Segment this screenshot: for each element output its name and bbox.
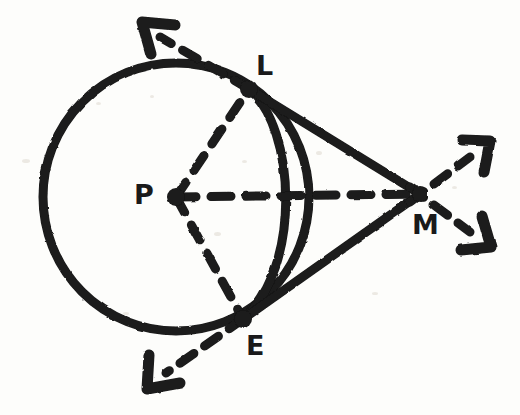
paper-speck	[372, 292, 378, 295]
segment-PM	[176, 194, 420, 197]
point-dot-E	[234, 310, 252, 328]
radius-PE	[176, 197, 243, 319]
paper-speck	[96, 102, 101, 105]
segment-EM	[243, 194, 420, 319]
geometry-diagram: P L E M	[0, 0, 520, 415]
point-label-L: L	[256, 52, 273, 79]
point-dot-M	[412, 186, 428, 202]
paper-speck	[150, 95, 154, 98]
radius-PL	[176, 89, 249, 197]
point-label-M: M	[412, 211, 439, 238]
paper-speck	[452, 186, 457, 189]
paper-speck	[316, 151, 322, 155]
point-dot-P	[167, 188, 185, 206]
paper-speck	[242, 160, 247, 163]
point-dot-L	[240, 80, 258, 98]
paper-speck	[22, 159, 30, 163]
paper-speck	[123, 312, 129, 315]
point-label-E: E	[246, 332, 264, 359]
paper-speck	[214, 232, 221, 236]
point-label-P: P	[134, 181, 154, 208]
